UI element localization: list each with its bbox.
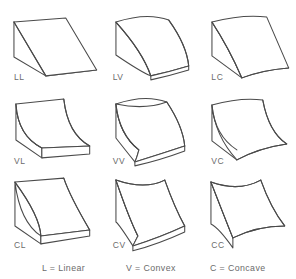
shape-label-ll: LL (14, 72, 25, 82)
legend-entry-concave: C = Concave (210, 263, 266, 273)
shape-label-lv: LV (113, 72, 124, 82)
shape-label-cl: CL (14, 240, 26, 250)
shape-grid: LL LV LC (0, 0, 296, 252)
shape-label-cc: CC (211, 240, 224, 250)
shape-cell-cl: CL (0, 168, 99, 252)
shape-cell-vv: VV (99, 84, 198, 168)
shape-cell-cc: CC (197, 168, 296, 252)
shape-label-vv: VV (113, 156, 126, 166)
legend-entry-convex: V = Convex (126, 263, 176, 273)
shape-cell-ll: LL (0, 0, 99, 84)
legend: L = Linear V = Convex C = Concave (0, 256, 296, 279)
curvature-taxonomy-figure: LL LV LC (0, 0, 296, 279)
legend-entry-linear: L = Linear (42, 263, 85, 273)
shape-cell-vc: VC (197, 84, 296, 168)
shape-label-vl: VL (14, 156, 26, 166)
shape-label-cv: CV (113, 240, 126, 250)
shape-cell-vl: VL (0, 84, 99, 168)
shape-label-vc: VC (211, 156, 224, 166)
shape-cell-lv: LV (99, 0, 198, 84)
shape-cell-lc: LC (197, 0, 296, 84)
shape-cell-cv: CV (99, 168, 198, 252)
shape-label-lc: LC (211, 72, 223, 82)
